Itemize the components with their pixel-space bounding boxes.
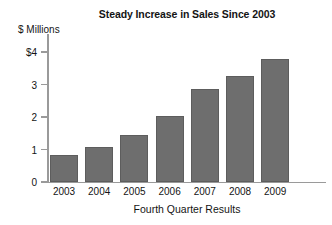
bar-2006: [156, 116, 184, 182]
bar-2008: [226, 76, 254, 182]
bar-chart-figure: Steady Increase in Sales Since 2003 $ Mi…: [0, 0, 332, 225]
bar-2009: [261, 59, 289, 182]
x-tick-label-2008: 2008: [229, 186, 251, 197]
y-tick-label: 3: [31, 79, 37, 90]
x-tick-label-2007: 2007: [194, 186, 216, 197]
x-tick-label-2006: 2006: [158, 186, 180, 197]
y-tick-label: 1: [31, 144, 37, 155]
y-tick-label: $4: [26, 47, 37, 58]
y-tick-mark: [41, 149, 48, 151]
y-tick-mark: [41, 181, 48, 183]
y-tick-mark: [41, 51, 48, 53]
x-axis-title: Fourth Quarter Results: [48, 203, 326, 215]
plot-area: [48, 34, 326, 182]
bar-2004: [85, 147, 113, 182]
bar-2005: [120, 135, 148, 182]
x-tick-label-2005: 2005: [123, 186, 145, 197]
x-tick-label-2009: 2009: [264, 186, 286, 197]
x-tick-label-2003: 2003: [53, 186, 75, 197]
y-tick-mark: [41, 84, 48, 86]
chart-title: Steady Increase in Sales Since 2003: [48, 8, 326, 20]
y-tick-label: 2: [31, 112, 37, 123]
bar-2003: [50, 155, 78, 182]
bar-2007: [191, 89, 219, 182]
y-tick-mark: [41, 116, 48, 118]
x-tick-label-2004: 2004: [88, 186, 110, 197]
y-tick-label: 0: [31, 177, 37, 188]
